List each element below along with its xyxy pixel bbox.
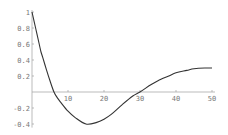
line-chart: 102030405010.80.60.40.2-0.2-0.4 (0, 0, 228, 135)
y-tick-label: 0.2 (17, 73, 30, 81)
y-tick-label: 0.4 (17, 57, 30, 65)
x-tick-label: 20 (100, 95, 108, 103)
x-tick-label: 10 (64, 95, 72, 103)
ticks: 102030405010.80.60.40.2-0.2-0.4 (13, 9, 216, 129)
axes (32, 10, 215, 128)
y-tick-label: 0.6 (17, 41, 30, 49)
x-tick-label: 50 (208, 95, 216, 103)
y-tick-label: 0.8 (17, 25, 30, 33)
y-tick-label: -0.2 (13, 105, 30, 113)
x-tick-label: 30 (136, 95, 144, 103)
x-tick-label: 40 (172, 95, 180, 103)
data-curve (32, 12, 212, 124)
y-tick-label: 1 (26, 9, 30, 17)
y-tick-label: -0.4 (13, 121, 30, 129)
